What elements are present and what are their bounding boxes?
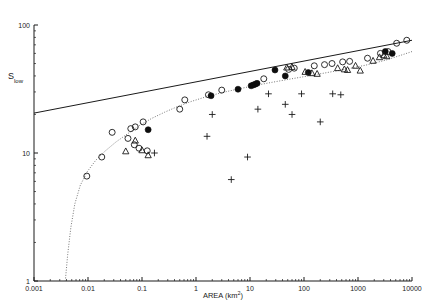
plot-background [0, 0, 429, 308]
x-tick-label: 10000 [402, 285, 422, 292]
marker-filled-circle [254, 80, 260, 86]
y-tick-label: 100 [18, 22, 30, 29]
y-tick-label: 1 [26, 278, 30, 285]
x-tick-label: 0.001 [25, 285, 43, 292]
y-tick-label: 10 [22, 150, 30, 157]
scatter-plot-svg: 0.0010.010.1110100100010000110100AREA (k… [0, 0, 429, 308]
x-tick-label: 1000 [350, 285, 366, 292]
marker-filled-circle [145, 127, 151, 133]
x-tick-label: 1 [194, 285, 198, 292]
x-tick-label: 100 [298, 285, 310, 292]
marker-filled-circle [282, 73, 288, 79]
marker-filled-circle [235, 86, 241, 92]
x-axis-title: AREA (km2) [203, 290, 244, 300]
x-tick-label: 10 [246, 285, 254, 292]
x-tick-label: 0.1 [137, 285, 147, 292]
marker-filled-circle [272, 67, 278, 73]
chart-figure: 0.0010.010.1110100100010000110100AREA (k… [0, 0, 429, 308]
marker-filled-circle [389, 50, 395, 56]
marker-filled-circle [208, 93, 214, 99]
x-tick-label: 0.01 [81, 285, 95, 292]
